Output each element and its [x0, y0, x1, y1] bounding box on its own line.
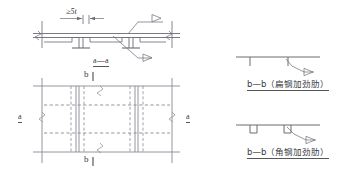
weld-leader-upper	[128, 15, 163, 35]
plan-view-group	[33, 72, 180, 166]
break-symbol-plan-top	[97, 86, 103, 96]
engineering-drawing-canvas: ≥5t a—a a a b b b—b（扁钢加劲肋） b—b（角钢加劲肋）	[0, 0, 342, 179]
section-mark-a-right: a	[186, 113, 190, 123]
angle-profile-left	[250, 125, 257, 133]
section-mark-b-bottom: b	[84, 155, 89, 164]
angle-profile-right	[284, 125, 291, 133]
break-symbol-section-left	[35, 31, 41, 40]
detail-flat-steel-group	[236, 57, 320, 76]
stiffener-tee-left	[72, 38, 90, 49]
section-mark-b-top: b	[84, 70, 89, 79]
dimension-label-5t: ≥5t	[66, 8, 77, 16]
plan-stiffener-group-left	[71, 86, 84, 152]
plan-stiffener-group-right	[130, 86, 143, 152]
dimension-line-5t	[60, 15, 104, 24]
section-label-aa: a—a	[93, 57, 109, 67]
detail-label-angle-steel: b—b（角钢加劲肋）	[247, 148, 329, 159]
break-symbol-plan-bottom	[97, 143, 103, 153]
detail-angle-steel-group	[236, 125, 320, 144]
weld-leader-lower	[113, 36, 152, 61]
section-mark-a-left: a	[18, 113, 22, 123]
weld-leader-flat-detail	[286, 59, 314, 76]
section-aa-group	[33, 15, 180, 62]
break-symbol-section-right	[166, 31, 172, 40]
detail-label-flat-steel: b—b（扁钢加劲肋）	[247, 80, 329, 91]
